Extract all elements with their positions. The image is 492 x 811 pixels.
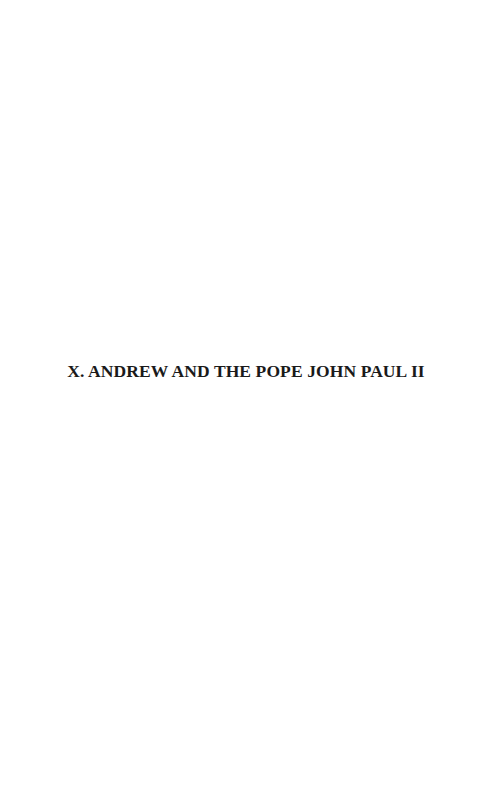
document-page: X. ANDREW AND THE POPE JOHN PAUL II bbox=[0, 0, 492, 811]
chapter-title: X. ANDREW AND THE POPE JOHN PAUL II bbox=[0, 360, 492, 382]
